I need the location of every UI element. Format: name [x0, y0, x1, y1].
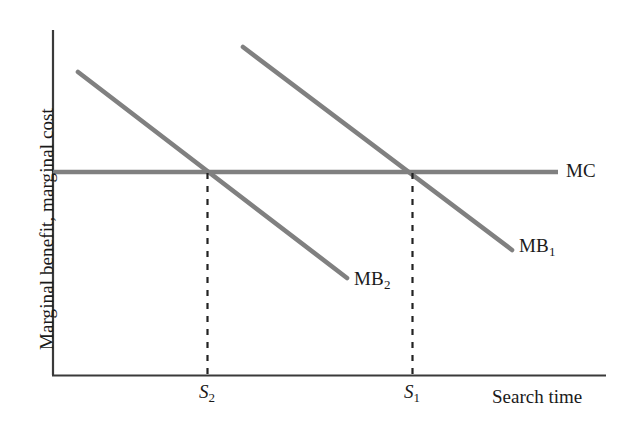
x-tick-label-s2-subscript: 2 [209, 390, 216, 405]
mb2-curve [78, 72, 347, 278]
mc-curve-label-text: MC [566, 160, 596, 181]
x-axis-label: Search time [492, 385, 582, 409]
x-tick-label-s1-subscript: 1 [414, 390, 421, 405]
mc-curve-label: MC [566, 160, 596, 182]
x-tick-label-s2-text: S [199, 381, 209, 402]
mb1-curve [243, 47, 512, 250]
y-axis-label: Marginal benefit, marginal cost [34, 0, 60, 350]
mb2-curve-label: MB2 [354, 268, 391, 292]
mb2-curve-label-subscript: 2 [384, 277, 391, 292]
x-tick-label-s1: S1 [392, 381, 432, 405]
mb1-curve-label: MB1 [519, 235, 556, 259]
mb1-curve-label-subscript: 1 [549, 244, 556, 259]
figure-container: Marginal benefit, marginal cost Search t… [0, 0, 626, 428]
chart-canvas [0, 0, 626, 428]
x-tick-label-s1-text: S [404, 381, 414, 402]
mb2-curve-label-text: MB [354, 268, 384, 289]
x-tick-label-s2: S2 [187, 381, 227, 405]
mb1-curve-label-text: MB [519, 235, 549, 256]
